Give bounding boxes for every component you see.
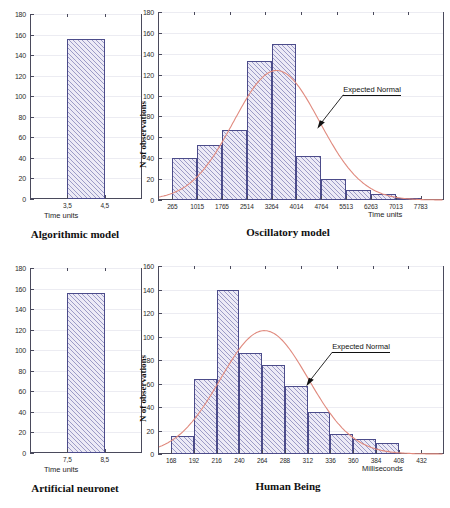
y-tick-label: 180 (4, 265, 26, 272)
x-tick-label: 240 (234, 457, 244, 464)
y-tick-label: 160 (132, 263, 154, 270)
figure-canvas: 0204060801001201401601803,54,5Time units… (0, 0, 450, 508)
top-tick-mark (408, 266, 409, 269)
y-tick-label: 0 (4, 196, 26, 203)
top-tick-mark (337, 266, 338, 269)
x-tick-mark (308, 450, 309, 454)
y-tick-label: 160 (4, 285, 26, 292)
y-gridline (159, 33, 443, 34)
histogram-bar (285, 386, 308, 454)
y-tick-label: 100 (132, 333, 154, 340)
y-tick-mark (30, 412, 34, 413)
y-tick-label: 100 (132, 92, 154, 99)
y-tick-mark (158, 75, 162, 76)
x-tick-label: 1765 (215, 203, 229, 210)
x-tick-mark (105, 449, 106, 453)
x-tick-mark (321, 196, 322, 200)
x-tick-mark (346, 196, 347, 200)
x-tick-mark (330, 450, 331, 454)
y-tick-mark (30, 309, 34, 310)
y-tick-label: 20 (132, 427, 154, 434)
x-tick-label: 312 (303, 457, 313, 464)
histogram-bar (222, 130, 247, 200)
x-tick-label: 408 (394, 457, 404, 464)
x-tick-mark (296, 196, 297, 200)
y-tick-label: 100 (4, 347, 26, 354)
top-tick-mark (301, 266, 302, 269)
y-tick-label: 120 (4, 72, 26, 79)
y-tick-mark (30, 96, 34, 97)
y-tick-mark (158, 179, 162, 180)
x-axis-title: Milliseconds (362, 464, 403, 473)
top-tick-mark (230, 266, 231, 269)
y-tick-mark (30, 76, 34, 77)
x-tick-mark (172, 196, 173, 200)
y-gridline (159, 290, 443, 291)
y-tick-mark (30, 178, 34, 179)
y-tick-mark (30, 55, 34, 56)
histogram-bar (172, 158, 197, 200)
x-tick-mark (353, 450, 354, 454)
histogram-bar (308, 412, 331, 454)
y-gridline (159, 337, 443, 338)
top-tick-mark (373, 12, 374, 15)
x-tick-mark (262, 450, 263, 454)
y-tick-mark (30, 289, 34, 290)
y-gridline (159, 116, 443, 117)
y-tick-mark (30, 137, 34, 138)
x-tick-mark (272, 196, 273, 200)
x-tick-mark (171, 450, 172, 454)
x-tick-label: 360 (348, 457, 358, 464)
y-tick-mark (30, 117, 34, 118)
y-gridline (159, 54, 443, 55)
y-tick-mark (158, 313, 162, 314)
x-tick-mark (421, 196, 422, 200)
histogram-bar (346, 190, 371, 200)
x-tick-label: 8,5 (100, 456, 108, 463)
histogram-bar (239, 353, 262, 454)
y-tick-label: 180 (4, 11, 26, 18)
x-tick-mark (105, 195, 106, 199)
x-tick-mark (222, 196, 223, 200)
x-tick-label: 1015 (190, 203, 204, 210)
x-tick-label: 168 (166, 457, 176, 464)
histogram-bar (296, 156, 321, 200)
x-tick-mark (67, 449, 68, 453)
y-gridline (159, 313, 443, 314)
y-tick-label: 140 (132, 286, 154, 293)
x-tick-label: 384 (371, 457, 381, 464)
top-tick-mark (67, 268, 68, 271)
x-tick-mark (194, 450, 195, 454)
x-tick-label: 265 (167, 203, 177, 210)
x-tick-mark (67, 195, 68, 199)
x-tick-label: 432 (416, 457, 426, 464)
y-gridline (31, 35, 141, 36)
histogram-bar (321, 179, 346, 200)
x-tick-label: 3,5 (63, 202, 71, 209)
y-tick-mark (30, 35, 34, 36)
y-tick-label: 0 (132, 451, 154, 458)
y-tick-label: 140 (4, 52, 26, 59)
histogram-bar (247, 61, 272, 200)
x-tick-mark (285, 450, 286, 454)
top-tick-mark (105, 268, 106, 271)
y-tick-mark (158, 158, 162, 159)
y-tick-label: 80 (4, 113, 26, 120)
top-tick-mark (373, 266, 374, 269)
histogram-bar (171, 436, 194, 454)
y-tick-mark (30, 199, 34, 200)
y-tick-mark (158, 407, 162, 408)
chart-panel-human-being: 0204060801001201401601681922162402642883… (126, 254, 450, 508)
y-tick-mark (30, 158, 34, 159)
y-tick-label: 120 (4, 326, 26, 333)
y-tick-mark (158, 454, 162, 455)
x-tick-mark (421, 450, 422, 454)
histogram-bar (376, 443, 399, 454)
y-tick-mark (30, 371, 34, 372)
top-tick-mark (67, 14, 68, 17)
y-gridline (31, 268, 141, 269)
y-tick-label: 20 (4, 429, 26, 436)
y-tick-mark (158, 360, 162, 361)
x-tick-label: 4014 (290, 203, 304, 210)
histogram-bar (272, 44, 297, 200)
